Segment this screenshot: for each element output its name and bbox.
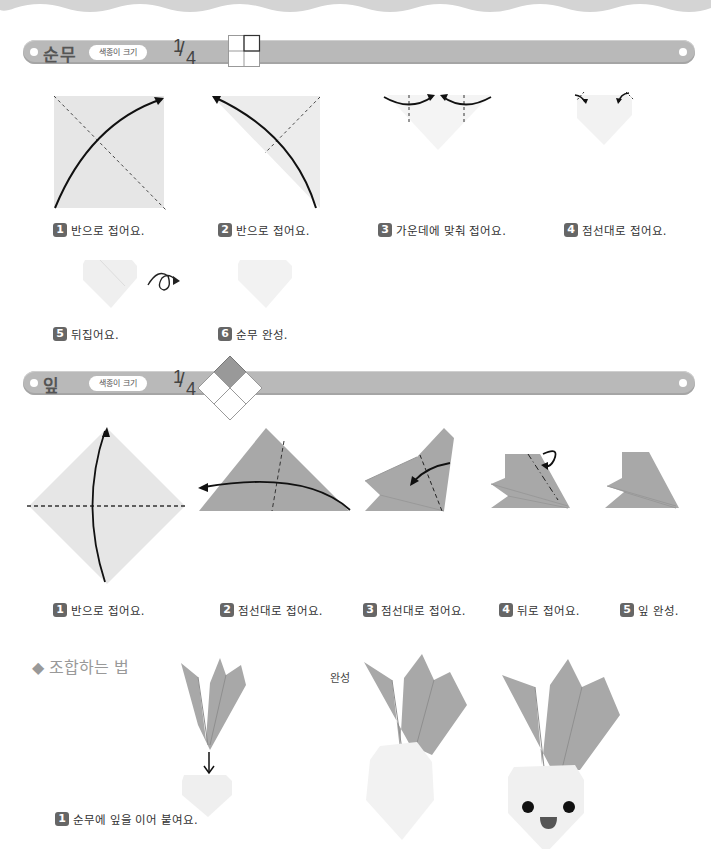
leaf-step-3-caption: 3점선대로 접어요. — [363, 602, 465, 618]
step-text: 반으로 접어요. — [71, 222, 144, 238]
step-number-badge: 2 — [220, 603, 234, 617]
step-text: 잎 완성. — [638, 602, 678, 618]
step-number-badge: 1 — [53, 603, 67, 617]
turnip-step-2-caption: 2반으로 접어요. — [218, 222, 309, 238]
step-number-badge: 1 — [53, 223, 67, 237]
leaf-step-5-diagram — [602, 450, 682, 510]
leaf-step-1-caption: 1반으로 접어요. — [53, 602, 144, 618]
section-banner-leaf: 잎 색종이 크기 1 / 4 — [23, 371, 695, 395]
banner-hole-right — [679, 48, 687, 56]
step-text: 반으로 접어요. — [236, 222, 309, 238]
completed-label: 완성 — [330, 669, 350, 685]
fraction-slash: / — [179, 38, 185, 61]
paper-size-fraction: 1 / 4 — [173, 36, 203, 66]
fraction-slash: / — [179, 369, 185, 392]
step-text: 점선대로 접어요. — [238, 602, 322, 618]
step-text: 뒤로 접어요. — [517, 602, 579, 618]
paper-size-label: 색종이 크기 — [89, 376, 147, 391]
step-text: 순무 완성. — [236, 326, 287, 342]
section-title: 잎 — [43, 372, 60, 397]
leaf-step-1-diagram — [25, 425, 195, 595]
step-number-badge: 1 — [55, 812, 69, 826]
step-text: 가운데에 맞춰 접어요. — [396, 222, 506, 238]
turnip-step-6-diagram — [236, 258, 296, 318]
banner-hole-left — [30, 48, 38, 56]
banner-hole-right — [679, 379, 687, 387]
turnip-step-1-diagram — [50, 93, 170, 215]
turnip-step-1-caption: 1반으로 접어요. — [53, 222, 144, 238]
section-banner-turnip: 순무 색종이 크기 1 / 4 — [23, 40, 695, 64]
assembly-step-1-caption: 1순무에 잎을 이어 붙여요. — [55, 811, 198, 827]
turnip-step-6-caption: 6순무 완성. — [218, 326, 287, 342]
turnip-left-eye — [522, 801, 534, 813]
leaf-step-5-caption: 5잎 완성. — [620, 602, 678, 618]
paper-size-grid-icon — [228, 35, 260, 67]
leaf-step-4-caption: 4뒤로 접어요. — [499, 602, 579, 618]
paper-size-diamond-grid-icon — [198, 356, 262, 420]
step-number-badge: 3 — [378, 223, 392, 237]
fraction-denominator: 4 — [186, 48, 196, 69]
section-title: 순무 — [43, 41, 77, 66]
banner-hole-left — [30, 379, 38, 387]
step-text: 점선대로 접어요. — [582, 222, 666, 238]
assembly-step-1-diagram — [178, 655, 248, 815]
leaf-step-2-diagram — [196, 425, 356, 515]
step-text: 뒤집어요. — [71, 326, 119, 342]
turnip-step-4-caption: 4점선대로 접어요. — [564, 222, 666, 238]
completed-turnip-face-illustration — [500, 655, 610, 845]
leaf-step-3-diagram — [362, 425, 462, 515]
completed-turnip-back-illustration — [362, 650, 482, 840]
step-number-badge: 6 — [218, 327, 232, 341]
turnip-right-eye — [563, 801, 575, 813]
turnip-step-2-diagram — [208, 93, 328, 215]
leaf-step-4-diagram — [488, 440, 578, 510]
assembly-heading: ◆ 조합하는 법 — [32, 654, 129, 678]
leaf-step-2-caption: 2점선대로 접어요. — [220, 602, 322, 618]
paper-size-label: 색종이 크기 — [89, 45, 147, 60]
step-number-badge: 5 — [620, 603, 634, 617]
step-text: 반으로 접어요. — [71, 602, 144, 618]
step-number-badge: 4 — [564, 223, 578, 237]
step-number-badge: 2 — [218, 223, 232, 237]
step-text: 점선대로 접어요. — [381, 602, 465, 618]
turnip-step-5-diagram — [80, 258, 200, 318]
turnip-step-4-diagram — [572, 90, 652, 160]
turnip-step-5-caption: 5뒤집어요. — [53, 326, 119, 342]
step-number-badge: 3 — [363, 603, 377, 617]
fraction-denominator: 4 — [186, 379, 196, 400]
step-number-badge: 5 — [53, 327, 67, 341]
step-number-badge: 4 — [499, 603, 513, 617]
step-text: 순무에 잎을 이어 붙여요. — [73, 811, 198, 827]
turnip-step-3-caption: 3가운데에 맞춰 접어요. — [378, 222, 506, 238]
wavy-border-decoration — [0, 0, 711, 20]
turnip-step-3-diagram — [382, 90, 502, 160]
